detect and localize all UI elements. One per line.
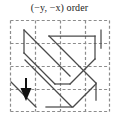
figure-container: (−y, −x) order <box>0 0 119 122</box>
scan-order-diagram <box>0 0 119 122</box>
